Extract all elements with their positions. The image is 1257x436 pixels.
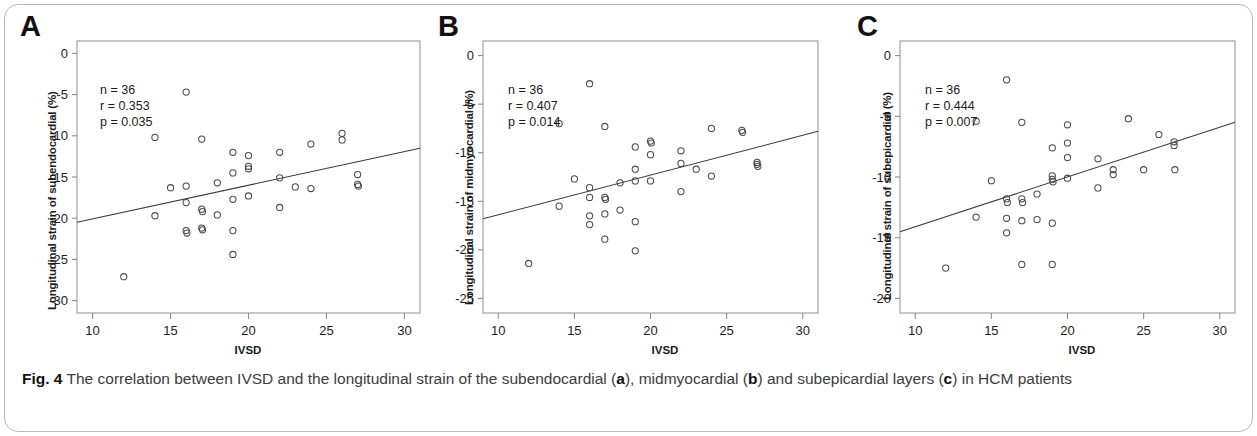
panel-c-plot: 0-5-10-15-201015202530 (840, 0, 1257, 352)
panel-b-stat-p: p = 0.014 (508, 115, 560, 129)
panel-b: B Longitudinal strain of midmyocardial (… (420, 0, 845, 352)
panel-a-stat-p: p = 0.035 (100, 115, 152, 129)
figure-card: A Longitudinal strain of subendocardial … (0, 0, 1257, 436)
svg-text:15: 15 (163, 323, 177, 338)
svg-text:-5: -5 (462, 97, 474, 112)
panel-c-stat-n: n = 36 (925, 83, 960, 97)
svg-text:25: 25 (319, 323, 333, 338)
svg-text:25: 25 (719, 323, 733, 338)
figure-panels: A Longitudinal strain of subendocardial … (0, 0, 1257, 352)
svg-text:0: 0 (884, 48, 891, 63)
caption-label-b: b (748, 370, 757, 387)
panel-b-x-axis-label: IVSD (595, 344, 735, 356)
panel-a-stat-n: n = 36 (100, 83, 135, 97)
svg-text:-15: -15 (455, 194, 474, 209)
svg-text:15: 15 (567, 323, 581, 338)
figure-caption: Fig. 4 The correlation between IVSD and … (22, 368, 1227, 390)
svg-text:10: 10 (908, 323, 922, 338)
svg-text:30: 30 (397, 323, 411, 338)
svg-text:-5: -5 (56, 87, 68, 102)
svg-text:25: 25 (1136, 323, 1150, 338)
svg-text:-10: -10 (872, 170, 891, 185)
panel-c-stat-p: p = 0.007 (925, 115, 977, 129)
panel-b-stat-n: n = 36 (508, 83, 543, 97)
svg-text:20: 20 (1060, 323, 1074, 338)
svg-text:-20: -20 (455, 242, 474, 257)
svg-text:10: 10 (491, 323, 505, 338)
svg-text:-20: -20 (872, 291, 891, 306)
svg-text:15: 15 (984, 323, 998, 338)
panel-a-stat-r: r = 0.353 (100, 99, 150, 113)
svg-text:10: 10 (85, 323, 99, 338)
svg-text:0: 0 (467, 48, 474, 63)
panel-b-stats: n = 36r = 0.407p = 0.014 (508, 82, 560, 130)
svg-text:20: 20 (241, 323, 255, 338)
panel-c-stats: n = 36r = 0.444p = 0.007 (925, 82, 977, 130)
svg-text:-25: -25 (455, 291, 474, 306)
svg-text:30: 30 (796, 323, 810, 338)
svg-text:-10: -10 (49, 128, 68, 143)
caption-label-c: c (944, 370, 953, 387)
caption-text-1: The correlation between IVSD and the lon… (62, 370, 616, 387)
svg-text:0: 0 (61, 46, 68, 61)
svg-text:30: 30 (1213, 323, 1227, 338)
svg-text:-15: -15 (49, 170, 68, 185)
caption-text-4: ) in HCM patients (952, 370, 1072, 387)
panel-b-plot: 0-5-10-15-20-251015202530 (420, 0, 845, 352)
panel-a: A Longitudinal strain of subendocardial … (0, 0, 430, 352)
caption-label-a: a (616, 370, 625, 387)
caption-text-3: ) and subepicardial layers ( (758, 370, 944, 387)
panel-c: C Longitudinal strain of subepicardial (… (840, 0, 1257, 352)
panel-b-stat-r: r = 0.407 (508, 99, 558, 113)
svg-text:-25: -25 (49, 252, 68, 267)
caption-figure-number: Fig. 4 (22, 370, 62, 387)
panel-c-stat-r: r = 0.444 (925, 99, 975, 113)
svg-text:-5: -5 (879, 109, 891, 124)
panel-a-x-axis-label: IVSD (178, 344, 318, 356)
svg-text:-20: -20 (49, 211, 68, 226)
svg-text:-10: -10 (455, 145, 474, 160)
panel-a-stats: n = 36r = 0.353p = 0.035 (100, 82, 152, 130)
caption-text-2: ), midmyocardial ( (625, 370, 748, 387)
svg-text:-15: -15 (872, 230, 891, 245)
svg-text:20: 20 (643, 323, 657, 338)
panel-a-plot: 0-5-10-15-20-25-301015202530 (0, 0, 430, 352)
svg-text:-30: -30 (49, 293, 68, 308)
panel-c-x-axis-label: IVSD (1012, 344, 1152, 356)
